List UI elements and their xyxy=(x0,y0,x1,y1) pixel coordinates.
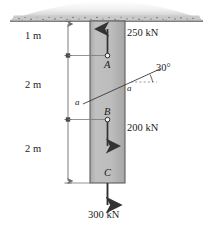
dimension-label-2m-ab: 2 m xyxy=(25,80,41,91)
section-label-a-left: a xyxy=(75,98,80,107)
load-label-200kn: 200 kN xyxy=(127,123,158,134)
dimension-label-1m: 1 m xyxy=(25,31,41,42)
load-label-300kn: 300 kN xyxy=(88,210,119,221)
point-label-b: B xyxy=(104,107,110,118)
engineering-figure: 1 m 2 m 2 m A B C 250 kN 200 kN 300 kN a… xyxy=(0,0,211,228)
angle-label-30deg: 30° xyxy=(156,63,171,74)
point-label-a: A xyxy=(104,60,110,71)
ground-band xyxy=(10,16,203,22)
section-label-a-right: a xyxy=(127,84,132,93)
dimension-label-2m-bc: 2 m xyxy=(25,144,41,155)
load-label-250kn: 250 kN xyxy=(127,28,158,39)
point-label-c: C xyxy=(104,168,111,179)
